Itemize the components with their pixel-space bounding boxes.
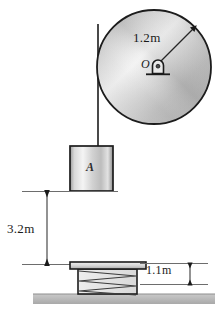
drop-height-label: 3.2m — [7, 221, 35, 237]
dimension-3-2m — [22, 190, 118, 266]
block-a-label: A — [86, 160, 94, 175]
diagram-canvas — [0, 0, 215, 313]
coil-spring — [70, 262, 146, 295]
mechanics-diagram: 1.2m O A 3.2m 1.1m — [0, 0, 215, 313]
pulley-radius-label: 1.2m — [133, 30, 161, 46]
pulley-center-label: O — [141, 57, 150, 72]
ground-surface — [33, 294, 215, 304]
spring-height-label: 1.1m — [146, 263, 172, 278]
